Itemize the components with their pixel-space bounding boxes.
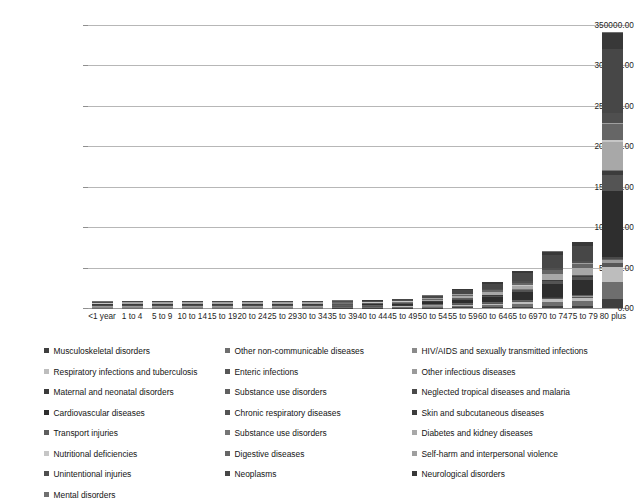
legend-swatch-icon <box>44 410 49 415</box>
legend-label: Enteric infections <box>235 367 299 377</box>
x-tick-label: 80 plus <box>598 312 628 322</box>
bar-column[interactable] <box>302 301 323 308</box>
legend-item[interactable]: Mental disorders <box>44 490 115 500</box>
bar-column[interactable] <box>92 301 113 308</box>
bar-segment[interactable] <box>602 191 623 257</box>
bar-segment[interactable] <box>542 284 563 296</box>
legend-item[interactable]: Enteric infections <box>225 367 298 377</box>
x-tick-label: 50 to 54 <box>418 312 448 322</box>
legend-label: Cardiovascular diseases <box>54 408 145 418</box>
bar-segment[interactable] <box>602 142 623 170</box>
bar-column[interactable] <box>332 300 353 308</box>
x-tick-label: 35 to 39 <box>327 312 357 322</box>
bar-segment[interactable] <box>512 273 533 281</box>
bar-segment[interactable] <box>602 33 623 49</box>
legend-swatch-icon <box>225 369 230 374</box>
bar-segment[interactable] <box>602 299 623 308</box>
bar-segment[interactable] <box>572 246 593 261</box>
bar-column[interactable] <box>212 301 233 308</box>
legend-label: Musculoskeletal disorders <box>54 346 150 356</box>
legend-label: Neglected tropical diseases and malaria <box>422 387 571 397</box>
bar-column[interactable] <box>242 301 263 308</box>
bar-column[interactable] <box>602 32 623 308</box>
bar-segment[interactable] <box>572 306 593 308</box>
bar-segment[interactable] <box>542 255 563 268</box>
bar-column[interactable] <box>452 289 473 308</box>
x-tick-label: 70 to 74 <box>538 312 568 322</box>
bar-segment[interactable] <box>572 280 593 295</box>
legend-label: Other non-communicable diseases <box>235 346 364 356</box>
legend-item[interactable]: Nutritional deficiencies <box>44 449 137 459</box>
legend-label: Skin and subcutaneous diseases <box>422 408 544 418</box>
legend-item[interactable]: Other non-communicable diseases <box>225 346 364 356</box>
legend-label: Unintentional injuries <box>54 469 132 479</box>
bar-segment[interactable] <box>602 175 623 191</box>
legend-item[interactable]: Diabetes and kidney diseases <box>412 428 533 438</box>
bar-column[interactable] <box>512 271 533 308</box>
bar-segment[interactable] <box>572 268 593 275</box>
legend-item[interactable]: Transport injuries <box>44 428 118 438</box>
bar-column[interactable] <box>392 299 413 308</box>
bar-segment[interactable] <box>602 124 623 140</box>
legend-item[interactable]: Neurological disorders <box>412 469 505 479</box>
legend-swatch-icon <box>412 471 417 476</box>
x-tick-label: 60 to 64 <box>478 312 508 322</box>
legend-item[interactable]: Self-harm and interpersonal violence <box>412 449 558 459</box>
bar-segment[interactable] <box>602 113 623 123</box>
legend-swatch-icon <box>412 348 417 353</box>
bar-column[interactable] <box>152 301 173 308</box>
legend-item[interactable]: Other infectious diseases <box>412 367 516 377</box>
legend-item[interactable]: Skin and subcutaneous diseases <box>412 408 544 418</box>
legend-swatch-icon <box>44 369 49 374</box>
legend-swatch-icon <box>44 389 49 394</box>
legend-item[interactable]: Neoplasms <box>225 469 276 479</box>
x-tick-label: 20 to 24 <box>237 312 267 322</box>
legend-swatch-icon <box>44 348 49 353</box>
bar-segment[interactable] <box>602 282 623 299</box>
x-tick-label: 55 to 59 <box>448 312 478 322</box>
legend-label: Respiratory infections and tuberculosis <box>54 367 198 377</box>
bar-segment[interactable] <box>482 307 503 308</box>
x-tick-label: 75 to 79 <box>568 312 598 322</box>
x-tick-label: 25 to 29 <box>267 312 297 322</box>
x-tick-label: <1 year <box>87 312 117 322</box>
bar-column[interactable] <box>272 301 293 308</box>
legend-item[interactable]: Unintentional injuries <box>44 469 131 479</box>
legend-swatch-icon <box>412 369 417 374</box>
legend-item[interactable]: Musculoskeletal disorders <box>44 346 150 356</box>
legend-swatch-icon <box>225 471 230 476</box>
legend-item[interactable]: Neglected tropical diseases and malaria <box>412 387 570 397</box>
bar-column[interactable] <box>422 295 443 308</box>
bar-segment[interactable] <box>542 306 563 308</box>
bar-segment[interactable] <box>512 292 533 300</box>
legend-label: Substance use disorders <box>235 428 327 438</box>
legend-label: Maternal and neonatal disorders <box>54 387 174 397</box>
x-tick-label: 5 to 9 <box>147 312 177 322</box>
legend-swatch-icon <box>44 430 49 435</box>
legend-swatch-icon <box>412 451 417 456</box>
bar-segment[interactable] <box>602 49 623 113</box>
legend-item[interactable]: Respiratory infections and tuberculosis <box>44 367 197 377</box>
bar-column[interactable] <box>122 301 143 308</box>
legend-swatch-icon <box>44 471 49 476</box>
stacked-bar-chart: 0.0050000.00100000.00150000.00200000.002… <box>0 0 634 500</box>
bar-column[interactable] <box>182 301 203 308</box>
legend-item[interactable]: Maternal and neonatal disorders <box>44 387 174 397</box>
legend-item[interactable]: Cardiovascular diseases <box>44 408 145 418</box>
bar-segment[interactable] <box>452 307 473 308</box>
bars-layer <box>87 0 628 340</box>
legend-item[interactable]: HIV/AIDS and sexually transmitted infect… <box>412 346 588 356</box>
legend-label: Digestive diseases <box>235 449 305 459</box>
legend-item[interactable]: Substance use disorders <box>225 387 327 397</box>
legend-item[interactable]: Chronic respiratory diseases <box>225 408 341 418</box>
legend-item[interactable]: Substance use disorders <box>225 428 327 438</box>
legend-swatch-icon <box>225 451 230 456</box>
bar-column[interactable] <box>542 251 563 308</box>
legend-item[interactable]: Digestive diseases <box>225 449 304 459</box>
x-tick-label: 1 to 4 <box>117 312 147 322</box>
bar-column[interactable] <box>482 282 503 308</box>
bar-column[interactable] <box>362 300 383 308</box>
bar-column[interactable] <box>572 242 593 308</box>
bar-segment[interactable] <box>602 267 623 282</box>
bar-segment[interactable] <box>512 307 533 308</box>
